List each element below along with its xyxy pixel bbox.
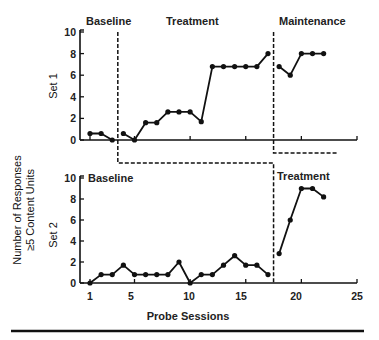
data-point (277, 64, 282, 69)
data-point (176, 259, 181, 264)
set2-panel (80, 176, 357, 286)
y-tick-bottom-10: 10 (64, 172, 76, 184)
y-tick-top-2: 2 (70, 112, 76, 124)
data-point (99, 272, 104, 277)
phase-label-treatment-set1: Treatment (166, 15, 219, 27)
panel-label-set2: Set 2 (47, 222, 59, 248)
phase-change-line-maintenance (274, 32, 337, 153)
x-tick-1: 1 (87, 290, 93, 302)
y-tick-top-8: 8 (70, 48, 76, 60)
data-point (199, 272, 204, 277)
data-line-maintenance (279, 54, 324, 76)
set1-panel (80, 30, 357, 143)
data-point (265, 272, 270, 277)
data-line-treatment (279, 189, 324, 254)
data-point (121, 263, 126, 268)
y-tick-top-10: 10 (64, 26, 76, 38)
data-point (154, 120, 159, 125)
y-tick-bottom-2: 2 (70, 256, 76, 268)
data-point (87, 280, 92, 285)
x-axis-label: Probe Sessions (147, 310, 230, 322)
phase-label-treatment-set2: Treatment (277, 170, 330, 182)
x-tick-5: 5 (128, 290, 134, 302)
data-point (199, 119, 204, 124)
data-point (176, 109, 181, 114)
data-point (188, 280, 193, 285)
y-axis-label-line2: ≥5 Content Units (24, 169, 36, 251)
data-point (254, 263, 259, 268)
data-point (254, 64, 259, 69)
y-tick-top-0: 0 (70, 134, 76, 146)
data-point (143, 272, 148, 277)
data-point (132, 272, 137, 277)
data-point (243, 64, 248, 69)
multiple-baseline-chart: Number of Responses ≥5 Content Units Set… (0, 0, 379, 340)
data-point (310, 51, 315, 56)
data-point (310, 186, 315, 191)
data-point (132, 137, 137, 142)
data-point (221, 64, 226, 69)
x-tick-10: 10 (183, 290, 195, 302)
data-point (277, 251, 282, 256)
data-point (288, 73, 293, 78)
data-point (299, 51, 304, 56)
data-point (110, 272, 115, 277)
data-point (154, 272, 159, 277)
data-point (110, 137, 115, 142)
data-point (210, 64, 215, 69)
data-point (121, 131, 126, 136)
data-point (210, 272, 215, 277)
phase-change-line-baseline (118, 32, 274, 283)
phase-label-baseline-set1: Baseline (86, 15, 131, 27)
data-point (243, 263, 248, 268)
x-tick-20: 20 (290, 290, 302, 302)
data-point (165, 272, 170, 277)
data-point (299, 186, 304, 191)
data-point (321, 194, 326, 199)
phase-change-lines (118, 32, 337, 283)
phase-label-maintenance-set1: Maintenance (279, 15, 346, 27)
y-tick-bottom-8: 8 (70, 193, 76, 205)
data-point (99, 131, 104, 136)
y-tick-bottom-6: 6 (70, 214, 76, 226)
x-tick-25: 25 (351, 290, 363, 302)
data-point (221, 263, 226, 268)
data-point (232, 64, 237, 69)
data-point (143, 120, 148, 125)
phase-label-baseline-set2: Baseline (88, 172, 133, 184)
data-point (321, 51, 326, 56)
y-tick-top-6: 6 (70, 69, 76, 81)
data-point (188, 109, 193, 114)
y-axis-label-line1: Number of Responses (11, 155, 23, 265)
y-tick-bottom-0: 0 (70, 277, 76, 289)
panel-label-set1: Set 1 (47, 73, 59, 99)
data-point (165, 109, 170, 114)
data-point (288, 217, 293, 222)
data-point (265, 51, 270, 56)
y-tick-top-4: 4 (70, 91, 76, 103)
data-point (232, 253, 237, 258)
data-point (87, 131, 92, 136)
y-tick-bottom-4: 4 (70, 235, 76, 247)
x-tick-15: 15 (235, 290, 247, 302)
